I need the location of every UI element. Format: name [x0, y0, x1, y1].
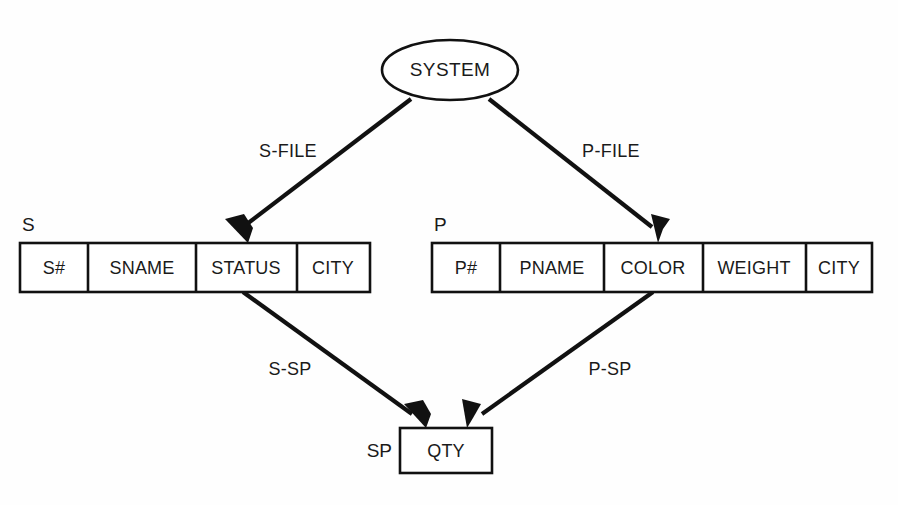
record-p-label: P	[434, 214, 447, 235]
record-s[interactable]: S S# SNAME STATUS CITY	[20, 214, 370, 292]
link-p-sp-arrowhead	[462, 399, 481, 428]
system-label: SYSTEM	[410, 59, 491, 80]
link-p-file-arrowhead	[651, 214, 670, 243]
link-s-file-label: S-FILE	[259, 141, 317, 161]
link-s-file-line	[243, 99, 411, 227]
record-s-field-2: STATUS	[211, 258, 281, 278]
link-s-sp-line	[243, 292, 412, 414]
record-p-field-1: PNAME	[519, 258, 584, 278]
record-p-field-3: WEIGHT	[717, 258, 790, 278]
record-sp[interactable]: SP QTY	[367, 428, 492, 473]
record-s-field-0: S#	[43, 258, 65, 278]
record-p-field-0: P#	[455, 258, 477, 278]
link-s-file-arrowhead	[225, 214, 253, 243]
record-sp-label: SP	[367, 440, 392, 461]
link-p-file-label: P-FILE	[582, 141, 640, 161]
link-s-file: S-FILE	[225, 99, 411, 243]
record-p-field-2: COLOR	[620, 258, 685, 278]
record-s-field-3: CITY	[312, 258, 354, 278]
record-s-field-1: SNAME	[109, 258, 174, 278]
record-s-label: S	[22, 214, 35, 235]
network-schema-diagram: S-FILE P-FILE S-SP P-SP SYSTEM S	[0, 0, 898, 505]
link-p-sp-label: P-SP	[588, 359, 631, 379]
link-p-file: P-FILE	[489, 99, 670, 243]
link-p-file-line	[489, 99, 652, 227]
link-s-sp: S-SP	[243, 292, 431, 428]
link-s-sp-label: S-SP	[268, 359, 311, 379]
link-p-sp: P-SP	[462, 292, 653, 428]
node-system[interactable]: SYSTEM	[382, 40, 518, 100]
diagram-canvas: S-FILE P-FILE S-SP P-SP SYSTEM S	[0, 0, 898, 505]
link-p-sp-line	[482, 292, 653, 414]
record-p-field-4: CITY	[818, 258, 860, 278]
record-sp-field-0: QTY	[427, 441, 465, 461]
link-s-sp-arrowhead	[404, 400, 431, 428]
